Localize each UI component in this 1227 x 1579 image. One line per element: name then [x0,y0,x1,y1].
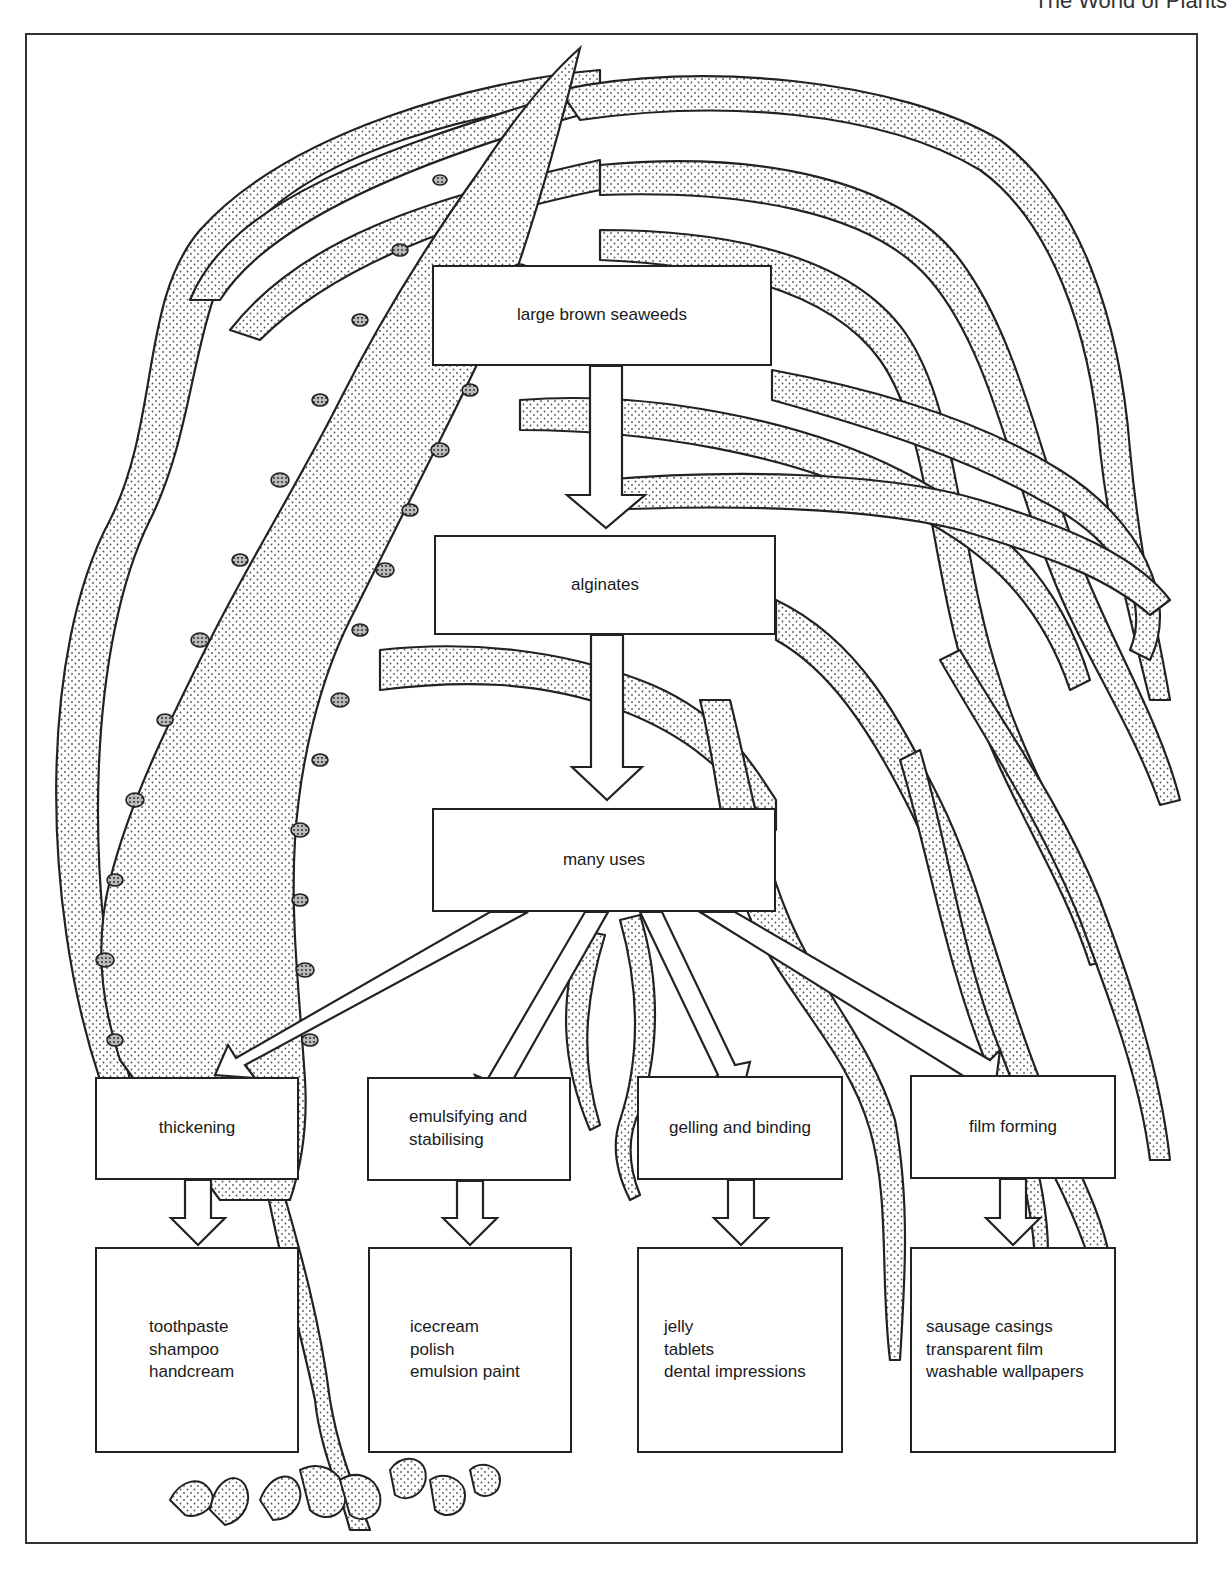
hub-box: many uses [432,808,776,912]
example-item: handcream [149,1361,234,1384]
property-box-emulsifying: emulsifying and stabilising [367,1077,571,1181]
example-item: sausage casings [926,1316,1084,1339]
example-item: jelly [664,1316,806,1339]
example-item: dental impressions [664,1361,806,1384]
examples-box-gelling: jelly tablets dental impressions [637,1247,843,1453]
example-item: polish [410,1339,520,1362]
example-item: shampoo [149,1339,234,1362]
property-label: film forming [969,1116,1057,1139]
source-label: large brown seaweeds [517,304,687,327]
example-item: toothpaste [149,1316,234,1339]
property-box-gelling: gelling and binding [637,1076,843,1180]
example-item: transparent film [926,1339,1084,1362]
example-item: icecream [410,1316,520,1339]
example-item: emulsion paint [410,1361,520,1384]
property-box-thickening: thickening [95,1077,299,1180]
property-label: gelling and binding [669,1117,811,1140]
hub-label: many uses [563,849,645,872]
example-item: tablets [664,1339,806,1362]
property-label-line-1: emulsifying and [409,1106,527,1129]
source-box: large brown seaweeds [432,265,772,366]
examples-box-emulsifying: icecream polish emulsion paint [368,1247,572,1453]
property-label-line-2: stabilising [409,1129,527,1152]
property-box-film-forming: film forming [910,1075,1116,1179]
examples-box-thickening: toothpaste shampoo handcream [95,1247,299,1453]
product-label: alginates [571,574,639,597]
property-label: thickening [159,1117,236,1140]
examples-box-film-forming: sausage casings transparent film washabl… [910,1247,1116,1453]
example-item: washable wallpapers [926,1361,1084,1384]
product-box: alginates [434,535,776,635]
